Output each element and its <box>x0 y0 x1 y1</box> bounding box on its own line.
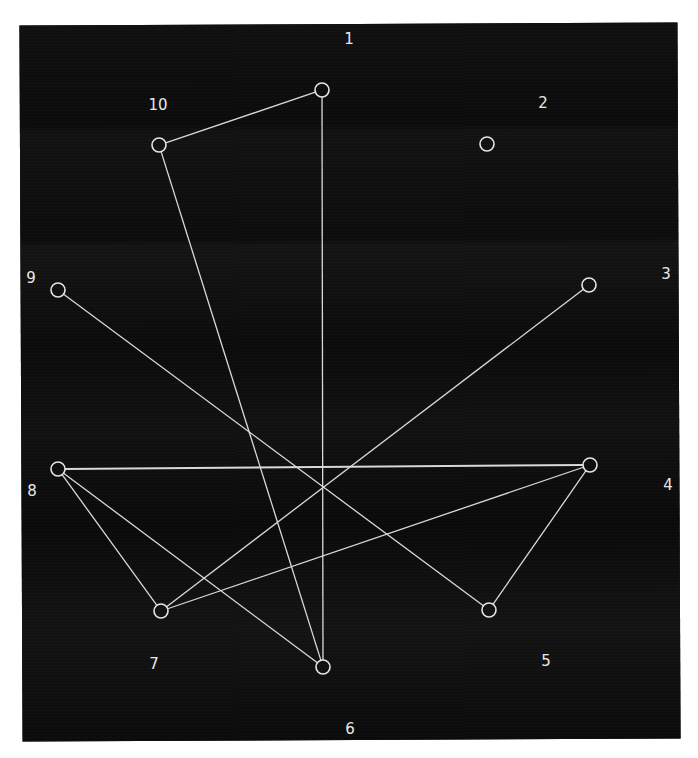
node-7-label: 7 <box>149 655 159 673</box>
labels-layer: 12345678910 <box>26 30 673 738</box>
node-1-label: 1 <box>344 30 354 48</box>
node-4-label: 4 <box>663 476 673 494</box>
node-6-circle <box>316 660 330 674</box>
node-9-label: 9 <box>26 269 36 287</box>
edge-8-4 <box>65 465 583 469</box>
node-9-circle <box>51 283 65 297</box>
node-10-circle <box>152 138 166 152</box>
node-2-label: 2 <box>538 94 548 112</box>
edge-7-4 <box>168 467 584 608</box>
node-8-label: 8 <box>27 482 37 500</box>
node-6-label: 6 <box>345 720 355 738</box>
node-1-circle <box>315 83 329 97</box>
node-7-circle <box>154 604 168 618</box>
edge-8-7 <box>62 475 157 606</box>
node-8-circle <box>51 462 65 476</box>
node-5-label: 5 <box>541 652 551 670</box>
edge-3-7 <box>167 289 584 607</box>
edges-layer <box>62 92 586 663</box>
edge-1-6 <box>322 97 323 660</box>
edge-1-10 <box>166 92 316 143</box>
figure-caption-cropped <box>230 748 690 758</box>
edge-8-6 <box>64 473 318 663</box>
node-5-circle <box>482 603 496 617</box>
graph-diagram: 12345678910 <box>0 0 698 758</box>
node-2-circle <box>480 137 494 151</box>
edge-5-4 <box>493 471 586 605</box>
node-4-circle <box>583 458 597 472</box>
node-10-label: 10 <box>148 96 167 114</box>
nodes-layer <box>51 83 597 674</box>
node-3-label: 3 <box>661 265 671 283</box>
edge-9-5 <box>64 294 484 606</box>
node-3-circle <box>582 278 596 292</box>
